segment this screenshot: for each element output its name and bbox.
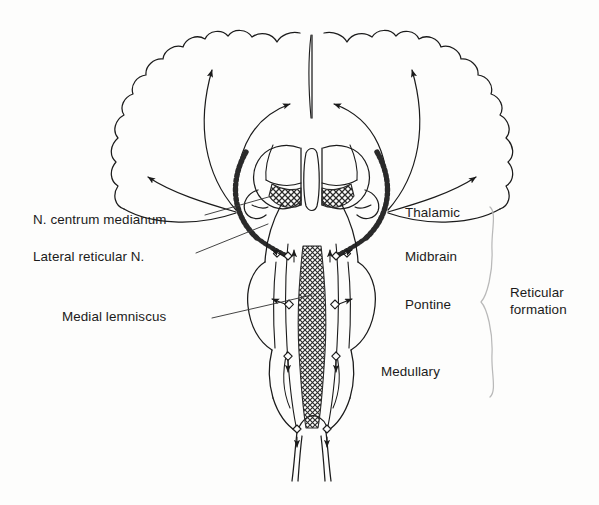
centrum-medianum-right [322, 184, 354, 207]
label-medial-lemniscus: Medial lemniscus [62, 309, 166, 324]
label-thalamic: Thalamic [405, 205, 460, 220]
lateral-reticular-pathways [235, 152, 387, 256]
median-raphe-column [298, 246, 326, 428]
centrum-medianum-left [269, 184, 301, 207]
label-midbrain: Midbrain [405, 249, 457, 264]
figure-canvas: N. centrum medianum Lateral reticular N.… [0, 0, 599, 505]
arrow-cortex-far-left [148, 177, 236, 212]
label-reticular-formation: Reticular formation [510, 284, 567, 318]
reticular-formation-brace [481, 207, 493, 397]
arrow-cortex-left [204, 70, 236, 210]
label-reticular-formation-line2: formation [510, 301, 567, 318]
leader-lines [196, 196, 312, 318]
label-pontine: Pontine [405, 297, 451, 312]
label-reticular-formation-line1: Reticular [510, 284, 567, 301]
thalamic-nuclei [244, 145, 379, 218]
cerebral-cortex-outline [111, 30, 512, 222]
label-n-centrum-medianum: N. centrum medianum [33, 212, 167, 227]
label-lateral-reticular-n: Lateral reticular N. [33, 249, 144, 264]
label-medullary: Medullary [381, 364, 440, 379]
arrow-cortex-right [388, 70, 420, 210]
leader-medial-lemniscus [212, 295, 312, 318]
